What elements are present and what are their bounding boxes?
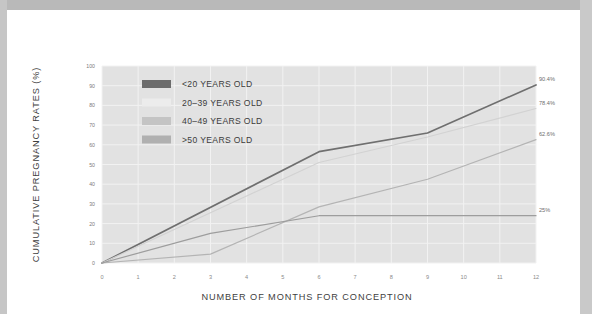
- x-axis-tick-label: 12: [533, 274, 539, 280]
- x-axis-tick-label: 0: [100, 274, 103, 280]
- page-edge-band-right: [580, 0, 592, 314]
- y-axis-tick-labels: 0102030405060708090100: [86, 63, 95, 266]
- y-axis-tick-label: 100: [86, 63, 95, 69]
- x-axis-tick-label: 3: [209, 274, 212, 280]
- y-axis-tick-label: 30: [89, 201, 95, 207]
- x-axis-tick-label: 2: [173, 274, 176, 280]
- x-axis-tick-label: 9: [426, 274, 429, 280]
- y-axis-tick-label: 10: [89, 240, 95, 246]
- x-axis-tick-label: 10: [461, 274, 467, 280]
- x-axis-title: NUMBER OF MONTHS FOR CONCEPTION: [201, 292, 412, 302]
- y-axis-title: CUMULATIVE PREGNANCY RATES (%): [31, 67, 41, 262]
- y-axis-tick-label: 50: [89, 162, 95, 168]
- series-end-label: 78.4%: [539, 100, 555, 106]
- series-end-label: 62.6%: [539, 131, 555, 137]
- legend-item-label: <20 YEARS OLD: [182, 79, 253, 89]
- x-axis-tick-labels: 0123456789101112: [100, 274, 539, 280]
- legend-swatch: [142, 136, 171, 144]
- legend-swatch: [142, 80, 171, 88]
- legend-item-label: 40–49 YEARS OLD: [182, 116, 263, 126]
- x-axis-tick-label: 1: [137, 274, 140, 280]
- y-axis-tick-label: 40: [89, 181, 95, 187]
- legend-item-label: 20–39 YEARS OLD: [182, 98, 263, 108]
- y-axis-tick-label: 20: [89, 221, 95, 227]
- legend-swatch: [142, 99, 171, 107]
- series-end-value-labels: 90.4%78.4%62.6%25%: [539, 76, 555, 213]
- series-end-label: 90.4%: [539, 76, 555, 82]
- y-axis-tick-label: 60: [89, 142, 95, 148]
- x-axis-tick-label: 8: [390, 274, 393, 280]
- x-axis-tick-label: 6: [317, 274, 320, 280]
- cumulative-pregnancy-rates-line-chart: 0102030405060708090100 0123456789101112 …: [7, 10, 580, 314]
- x-axis-tick-label: 7: [354, 274, 357, 280]
- legend-swatch: [142, 117, 171, 125]
- y-axis-tick-label: 0: [92, 260, 95, 266]
- figure-canvas: 0102030405060708090100 0123456789101112 …: [7, 10, 580, 314]
- page-edge-band-top: [0, 0, 592, 10]
- scanned-figure-page: 0102030405060708090100 0123456789101112 …: [0, 0, 592, 314]
- x-axis-tick-label: 4: [245, 274, 248, 280]
- legend-item-label: >50 YEARS OLD: [182, 135, 253, 145]
- series-end-label: 25%: [539, 207, 550, 213]
- y-axis-tick-label: 80: [89, 102, 95, 108]
- page-edge-band-left: [0, 0, 7, 314]
- x-axis-tick-label: 11: [497, 274, 503, 280]
- x-axis-tick-label: 5: [281, 274, 284, 280]
- y-axis-tick-label: 70: [89, 122, 95, 128]
- y-axis-tick-label: 90: [89, 83, 95, 89]
